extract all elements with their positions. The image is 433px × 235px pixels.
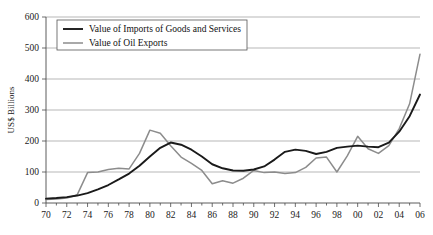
x-axis-ticks: 70727476788082848688909294969800020406 — [41, 203, 425, 220]
x-tick-label: 98 — [332, 210, 342, 220]
y-axis-label: US$ Billions — [6, 86, 16, 133]
y-tick-label: 600 — [25, 12, 40, 22]
x-tick-label: 84 — [187, 210, 197, 220]
y-axis-label-text: US$ Billions — [6, 86, 16, 133]
x-tick-label: 78 — [124, 210, 134, 220]
x-tick-label: 02 — [374, 210, 384, 220]
line-chart: 0100200300400500600 70727476788082848688… — [0, 0, 433, 235]
y-tick-label: 0 — [34, 198, 39, 208]
y-tick-label: 100 — [25, 167, 40, 177]
x-tick-label: 76 — [104, 210, 114, 220]
y-axis-ticks: 0100200300400500600 — [25, 12, 46, 208]
x-tick-label: 74 — [83, 210, 93, 220]
x-tick-label: 04 — [394, 210, 404, 220]
x-tick-label: 06 — [415, 210, 425, 220]
x-tick-label: 94 — [291, 210, 301, 220]
y-tick-label: 400 — [25, 74, 40, 84]
chart-legend[interactable]: Value of Imports of Goods and ServicesVa… — [57, 20, 247, 50]
x-tick-label: 72 — [62, 210, 72, 220]
y-tick-label: 300 — [25, 105, 40, 115]
x-tick-label: 92 — [270, 210, 280, 220]
legend-label: Value of Imports of Goods and Services — [89, 24, 241, 34]
x-tick-label: 86 — [207, 210, 217, 220]
data-series — [46, 54, 420, 199]
y-tick-label: 500 — [25, 43, 40, 53]
chart-container: 0100200300400500600 70727476788082848688… — [0, 0, 433, 235]
series-line — [46, 54, 420, 199]
x-tick-label: 70 — [41, 210, 51, 220]
x-tick-label: 96 — [311, 210, 321, 220]
x-tick-label: 00 — [353, 210, 363, 220]
legend-label: Value of Oil Exports — [89, 38, 168, 48]
x-tick-label: 88 — [228, 210, 238, 220]
x-tick-label: 80 — [145, 210, 155, 220]
x-tick-label: 82 — [166, 210, 176, 220]
y-tick-label: 200 — [25, 136, 40, 146]
x-tick-label: 90 — [249, 210, 259, 220]
